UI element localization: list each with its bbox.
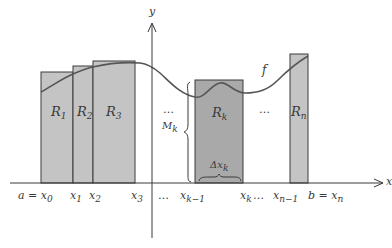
rectangle-r2	[73, 66, 93, 183]
tick-ellipsis-2: …	[253, 190, 265, 201]
rectangle-label-r3: R3	[106, 105, 122, 121]
ellipsis-right: …	[259, 104, 271, 115]
riemann-sum-diagram	[0, 0, 392, 248]
tick-label-xk-minus-1: xk−1	[180, 190, 205, 204]
y-axis-label: y	[149, 6, 155, 17]
ellipsis-left: …	[163, 104, 175, 115]
height-brace-icon	[184, 82, 191, 182]
tick-label-xn: b = xn	[308, 190, 343, 204]
tick-label-x1: x1	[70, 190, 82, 204]
height-label-mk: Mk	[162, 121, 178, 134]
rectangle-label-r1: R1	[51, 105, 67, 121]
rectangle-label-rk: Rk	[212, 106, 227, 122]
tick-label-x0: a = x0	[18, 190, 53, 204]
tick-label-xk: xk	[240, 190, 252, 204]
function-label: f	[262, 64, 266, 76]
width-label-delta-xk: Δxk	[210, 160, 228, 173]
tick-label-x2: x2	[89, 190, 101, 204]
rectangle-label-rn: Rn	[291, 105, 307, 121]
tick-label-x3: x3	[131, 190, 143, 204]
tick-ellipsis-1: …	[158, 190, 170, 201]
x-axis-label: x	[386, 176, 392, 187]
rectangle-r3	[93, 61, 135, 183]
tick-label-xn-minus-1: xn−1	[273, 190, 298, 204]
rectangle-label-r2: R2	[77, 105, 93, 121]
